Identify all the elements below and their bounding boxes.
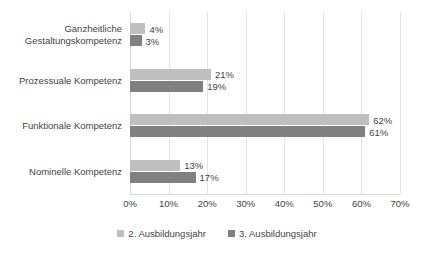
bar-2[interactable] bbox=[130, 35, 142, 46]
bar-line: 13% bbox=[130, 160, 400, 171]
bar-value-label: 62% bbox=[369, 114, 392, 125]
category-axis-labels: GanzheitlicheGestaltungskompetenzProzess… bbox=[0, 12, 126, 194]
bar-value-label: 13% bbox=[180, 160, 203, 171]
bar-1[interactable] bbox=[130, 69, 211, 80]
bar-line: 3% bbox=[130, 35, 400, 46]
category-label-line: Nominelle Kompetenz bbox=[29, 166, 122, 178]
bar-group: 13%17% bbox=[130, 149, 400, 195]
bar-1[interactable] bbox=[130, 23, 145, 34]
bar-value-label: 21% bbox=[211, 69, 234, 80]
category-label-line: Ganzheitliche bbox=[64, 23, 122, 35]
bar-2[interactable] bbox=[130, 126, 365, 137]
bar-value-label: 3% bbox=[142, 35, 160, 46]
bar-value-label: 17% bbox=[196, 172, 219, 183]
gridline bbox=[400, 12, 401, 194]
bar-group: 4%3% bbox=[130, 12, 400, 58]
plot-area: 4%3%21%19%62%61%13%17% bbox=[130, 12, 400, 194]
bar-value-label: 61% bbox=[365, 126, 388, 137]
bar-chart: 4%3%21%19%62%61%13%17% GanzheitlicheGest… bbox=[0, 0, 434, 256]
legend-label: 3. Ausbildungsjahr bbox=[239, 228, 317, 239]
category-label-line: Prozessuale Kompetenz bbox=[19, 75, 122, 87]
bar-line: 61% bbox=[130, 126, 400, 137]
bar-1[interactable] bbox=[130, 114, 369, 125]
bar-2[interactable] bbox=[130, 172, 196, 183]
legend-swatch-icon bbox=[228, 230, 235, 237]
category-label: Prozessuale Kompetenz bbox=[0, 58, 122, 104]
category-label-line: Funktionale Kompetenz bbox=[22, 120, 122, 132]
bar-line: 4% bbox=[130, 23, 400, 34]
bar-2[interactable] bbox=[130, 81, 203, 92]
bar-line: 17% bbox=[130, 172, 400, 183]
x-axis-tick-labels: 0%10%20%30%40%50%60%70% bbox=[130, 198, 400, 214]
legend-item-2[interactable]: 3. Ausbildungsjahr bbox=[228, 228, 317, 239]
x-tick-label: 50% bbox=[313, 198, 332, 209]
bar-groups: 4%3%21%19%62%61%13%17% bbox=[130, 12, 400, 194]
category-label: GanzheitlicheGestaltungskompetenz bbox=[0, 12, 122, 58]
x-tick-label: 60% bbox=[352, 198, 371, 209]
x-tick-label: 0% bbox=[123, 198, 137, 209]
bar-line: 62% bbox=[130, 114, 400, 125]
x-axis-line bbox=[130, 194, 400, 195]
x-tick-label: 20% bbox=[198, 198, 217, 209]
legend-label: 2. Ausbildungsjahr bbox=[128, 228, 206, 239]
category-label: Nominelle Kompetenz bbox=[0, 149, 122, 195]
bar-line: 19% bbox=[130, 81, 400, 92]
bar-line: 21% bbox=[130, 69, 400, 80]
x-tick-label: 10% bbox=[159, 198, 178, 209]
chart-legend: 2. Ausbildungsjahr3. Ausbildungsjahr bbox=[0, 228, 434, 239]
category-label: Funktionale Kompetenz bbox=[0, 103, 122, 149]
x-tick-label: 70% bbox=[390, 198, 409, 209]
x-tick-label: 30% bbox=[236, 198, 255, 209]
bar-value-label: 4% bbox=[145, 23, 163, 34]
bar-value-label: 19% bbox=[203, 81, 226, 92]
bar-group: 62%61% bbox=[130, 103, 400, 149]
bar-group: 21%19% bbox=[130, 58, 400, 104]
x-tick-label: 40% bbox=[275, 198, 294, 209]
legend-item-1[interactable]: 2. Ausbildungsjahr bbox=[117, 228, 206, 239]
bar-1[interactable] bbox=[130, 160, 180, 171]
legend-swatch-icon bbox=[117, 230, 124, 237]
category-label-line: Gestaltungskompetenz bbox=[25, 35, 122, 47]
